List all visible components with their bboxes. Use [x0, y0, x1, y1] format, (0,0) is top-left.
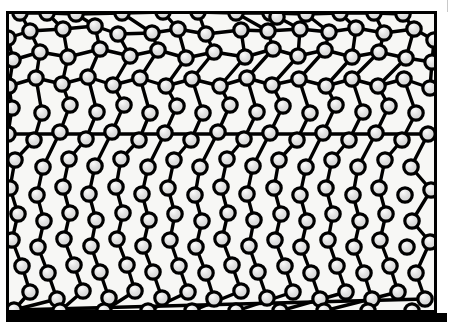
graph-node [53, 125, 67, 139]
graph-node [214, 180, 228, 194]
graph-node [188, 188, 202, 202]
graph-node [158, 126, 172, 140]
graph-node [351, 160, 365, 174]
graph-node [55, 77, 69, 91]
graph-node [238, 50, 252, 64]
graph-node [56, 180, 70, 194]
graph-node [373, 233, 387, 247]
graph-node [223, 98, 237, 112]
graph-node [63, 206, 77, 220]
graph-node [116, 206, 130, 220]
graph-node [111, 27, 125, 41]
graph-node [142, 213, 156, 227]
graph-node [345, 50, 359, 64]
graph-node [391, 285, 405, 299]
graph-node [172, 259, 186, 273]
graph-node [161, 181, 175, 195]
graph-node [276, 99, 290, 113]
graph-node [371, 79, 385, 93]
graph-node [89, 213, 103, 227]
graph-node [159, 79, 173, 93]
graph-node [146, 265, 160, 279]
graph-node [135, 187, 149, 201]
bottom-black-bar [6, 313, 447, 322]
graph-node [215, 232, 229, 246]
graph-node [329, 98, 343, 112]
graph-node [379, 207, 393, 221]
graph-node [170, 99, 184, 113]
graph-node [290, 133, 304, 147]
graph-node [326, 207, 340, 221]
graph-node [294, 240, 308, 254]
graph-node [240, 71, 254, 85]
graph-node [184, 133, 198, 147]
graph-node [234, 23, 248, 37]
graph-node [260, 291, 274, 305]
graph-node [347, 240, 361, 254]
graph-node [425, 55, 439, 69]
graph-node [265, 78, 279, 92]
graph-node [293, 22, 307, 36]
graph-node [342, 133, 356, 147]
graph-node [88, 159, 102, 173]
graph-node [300, 214, 314, 228]
graph-node [400, 240, 414, 254]
graph-node [266, 42, 280, 56]
graph-node [398, 188, 412, 202]
graph-node [185, 72, 199, 86]
graph-node [291, 49, 305, 63]
graph-node [128, 284, 142, 298]
graph-node [250, 105, 264, 119]
graph-node [303, 106, 317, 120]
graph-node [11, 207, 25, 221]
graph-node [196, 106, 210, 120]
graph-node [179, 51, 193, 65]
graph-node [181, 285, 195, 299]
graph-node [123, 49, 137, 63]
graph-node [339, 285, 353, 299]
graph-node [382, 99, 396, 113]
graph-node [132, 133, 146, 147]
graph-node [93, 265, 107, 279]
graph-node [56, 22, 70, 36]
graph-node [8, 153, 22, 167]
graph-node [3, 181, 17, 195]
graph-node [27, 133, 41, 147]
graph-node [251, 265, 265, 279]
graph-node [163, 233, 177, 247]
graph-node [207, 292, 221, 306]
graph-node [321, 233, 335, 247]
graph-node [299, 160, 313, 174]
graph-node [117, 98, 131, 112]
graph-node [81, 70, 95, 84]
graph-node [67, 258, 81, 272]
graph-node [404, 160, 418, 174]
graph-node [110, 232, 124, 246]
graph-node [421, 127, 435, 141]
graph-node [240, 187, 254, 201]
graph-node [397, 72, 411, 86]
graph-node [247, 213, 261, 227]
figure-root [0, 0, 459, 334]
graph-node [141, 160, 155, 174]
graph-node [151, 43, 165, 57]
graph-node [36, 160, 50, 174]
graph-node [23, 285, 37, 299]
graph-node [167, 153, 181, 167]
graph-node [41, 266, 55, 280]
graph-node [407, 22, 421, 36]
graph-node [383, 259, 397, 273]
graph-node [246, 159, 260, 173]
graph-node [136, 239, 150, 253]
graph-node [63, 98, 77, 112]
graph-node [378, 153, 392, 167]
graph-node [189, 240, 203, 254]
graph-node [15, 259, 29, 273]
graph-node [405, 214, 419, 228]
graph-node [346, 188, 360, 202]
graph-node [109, 180, 123, 194]
graph-node [330, 259, 344, 273]
graph-node [409, 266, 423, 280]
graph-node [263, 126, 277, 140]
graph-node [356, 105, 370, 119]
